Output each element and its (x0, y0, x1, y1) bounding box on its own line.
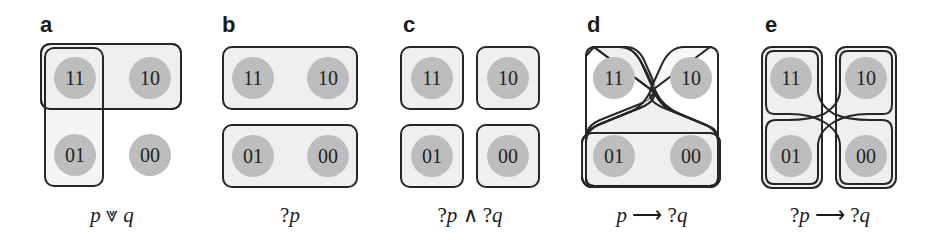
caption-c: ?p ∧ ?q (437, 203, 503, 227)
state-label-10: 10 (140, 67, 160, 89)
state-label-11: 11 (243, 67, 262, 89)
state-label-01: 01 (781, 145, 801, 167)
caption-e-operator: ⟶ (810, 203, 851, 227)
state-label-10: 10 (318, 67, 338, 89)
caption-d: p ⟶ ?q (615, 203, 688, 227)
state-label-01: 01 (243, 145, 263, 167)
caption-b: ?p (280, 203, 300, 227)
state-label-10: 10 (498, 67, 518, 89)
state-label-10: 10 (856, 67, 876, 89)
state-label-11: 11 (604, 67, 623, 89)
state-label-11: 11 (65, 67, 84, 89)
caption-e-question-mark-2: ? (850, 203, 859, 227)
panel-letter-a: a (40, 12, 53, 37)
state-label-11: 11 (422, 67, 441, 89)
state-label-01: 01 (422, 145, 442, 167)
caption-c-p: p (445, 203, 458, 227)
panel-a: a 11 10 01 00 p ⩔ q (40, 12, 181, 227)
caption-a: p ⩔ q (88, 203, 134, 227)
state-label-00: 00 (681, 145, 701, 167)
caption-d-question-mark: ? (668, 203, 677, 227)
caption-d-operator: ⟶ (627, 203, 668, 227)
panel-e: e 11 10 01 00 ?p ⟶ ?q (762, 12, 896, 227)
caption-c-question-mark-1: ? (437, 203, 446, 227)
panel-d: d 11 10 01 00 p ⟶ ?q (582, 12, 720, 227)
caption-b-question-mark: ? (280, 203, 289, 227)
panel-letter-e: e (765, 12, 777, 37)
panel-letter-d: d (587, 12, 600, 37)
caption-a-operator: ⩔ (101, 203, 124, 227)
caption-e-q: q (860, 203, 871, 227)
caption-e-p: p (797, 203, 810, 227)
panel-c: c 11 10 01 00 ?p ∧ ?q (401, 12, 539, 227)
panel-b: b 11 10 01 00 ?p (222, 12, 357, 227)
state-label-11: 11 (781, 67, 800, 89)
caption-c-q: q (492, 203, 503, 227)
state-label-01: 01 (65, 144, 85, 166)
caption-d-p: p (615, 203, 628, 227)
caption-a-p: p (88, 203, 101, 227)
state-label-10: 10 (681, 67, 701, 89)
caption-c-question-mark-2: ? (483, 203, 492, 227)
state-label-00: 00 (856, 145, 876, 167)
panel-letter-b: b (222, 12, 235, 37)
panel-letter-c: c (403, 12, 415, 37)
state-label-01: 01 (604, 145, 624, 167)
state-label-00: 00 (318, 145, 338, 167)
figure-canvas: a 11 10 01 00 p ⩔ q b 11 10 01 00 ?p (0, 0, 940, 241)
caption-e-question-mark-1: ? (790, 203, 799, 227)
caption-a-q: q (123, 203, 134, 227)
state-label-00: 00 (140, 144, 160, 166)
state-label-00: 00 (498, 145, 518, 167)
caption-e: ?p ⟶ ?q (790, 203, 871, 227)
caption-c-operator: ∧ (457, 203, 483, 227)
caption-d-q: q (677, 203, 688, 227)
caption-b-p: p (287, 203, 300, 227)
